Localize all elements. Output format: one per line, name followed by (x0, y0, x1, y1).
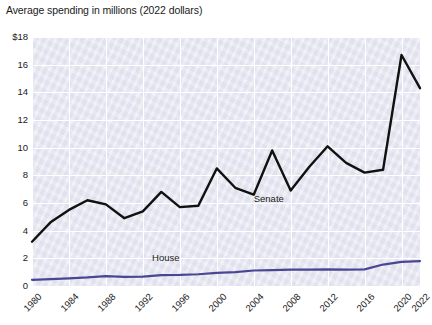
y-axis-tick-4: 4 (0, 225, 28, 236)
series-line-senate (32, 55, 420, 242)
y-axis-tick-18: $18 (0, 31, 28, 42)
x-axis-tick-2016: 2016 (349, 291, 377, 319)
y-axis-tick-6: 6 (0, 197, 28, 208)
x-axis-tick-1980: 1980 (16, 291, 44, 319)
series-lines (32, 37, 420, 286)
series-label-senate: Senate (254, 193, 284, 204)
y-axis-tick-12: 12 (0, 114, 28, 125)
y-axis-tick-2: 2 (0, 252, 28, 263)
series-label-house: House (152, 252, 179, 263)
y-axis-tick-14: 14 (0, 86, 28, 97)
plot-area (32, 37, 420, 286)
x-axis-tick-2000: 2000 (201, 291, 229, 319)
x-axis-tick-2012: 2012 (312, 291, 340, 319)
x-axis-tick-1992: 1992 (127, 291, 155, 319)
series-line-house (32, 261, 420, 280)
y-axis-tick-16: 16 (0, 59, 28, 70)
x-axis-tick-2004: 2004 (238, 291, 266, 319)
x-axis-tick-1988: 1988 (90, 291, 118, 319)
gridline-horizontal (32, 286, 420, 287)
y-axis-tick-10: 10 (0, 142, 28, 153)
chart-title: Average spending in millions (2022 dolla… (6, 4, 202, 16)
x-axis-tick-1984: 1984 (53, 291, 81, 319)
x-axis-tick-1996: 1996 (164, 291, 192, 319)
y-axis-tick-0: 0 (0, 280, 28, 291)
y-axis-tick-8: 8 (0, 169, 28, 180)
x-axis-tick-2008: 2008 (275, 291, 303, 319)
